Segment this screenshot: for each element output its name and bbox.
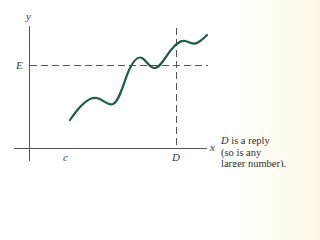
- annotation-line-1: D is a reply: [221, 135, 286, 147]
- annotation-text: D is a reply (so is any larger number).: [221, 135, 286, 167]
- y-axis-label: y: [26, 11, 31, 22]
- c-label: c: [63, 152, 68, 163]
- x-axis-label: x: [210, 142, 215, 153]
- function-curve: [70, 35, 207, 120]
- annotation-line-1-rest: is a reply: [229, 135, 270, 146]
- d-label: D: [172, 152, 180, 163]
- e-label: E: [16, 60, 23, 71]
- annotation-d-var: D: [221, 135, 229, 146]
- annotation-line-3: larger number).: [221, 158, 286, 167]
- annotation-line-2: (so is any: [221, 147, 286, 159]
